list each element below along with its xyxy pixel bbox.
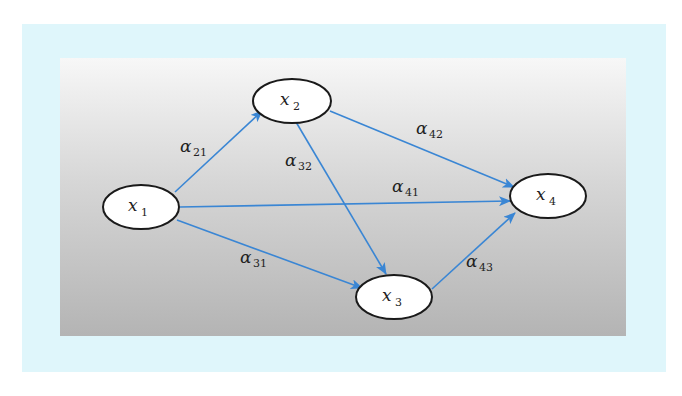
svg-text:32: 32 (298, 160, 312, 173)
svg-text:42: 42 (429, 128, 443, 141)
svg-text:31: 31 (253, 257, 267, 270)
svg-text:4: 4 (549, 195, 556, 208)
svg-text:x: x (280, 89, 290, 109)
svg-text:α: α (240, 247, 252, 267)
svg-text:α: α (466, 251, 478, 271)
svg-text:α: α (392, 176, 404, 196)
edge-label-a21: α 21 (180, 136, 207, 159)
svg-text:x: x (382, 285, 392, 305)
node-x1: x 1 (103, 185, 179, 229)
svg-text:x: x (536, 184, 546, 204)
edge-x2-x3 (296, 122, 386, 274)
node-x2: x 2 (253, 79, 331, 123)
svg-text:1: 1 (141, 206, 148, 219)
svg-text:α: α (180, 136, 192, 156)
path-diagram: α 21 α 32 α 42 α 41 α 31 α 43 x 1 x 2 x … (0, 0, 682, 396)
edge-label-a32: α 32 (285, 150, 312, 173)
node-x4: x 4 (510, 174, 586, 218)
svg-text:3: 3 (395, 296, 402, 309)
edge-label-a41: α 41 (392, 176, 419, 199)
svg-text:x: x (128, 195, 138, 215)
svg-text:21: 21 (193, 146, 207, 159)
edge-x1-x3 (177, 220, 362, 288)
node-x3: x 3 (356, 275, 432, 319)
edge-label-a42: α 42 (416, 118, 443, 141)
svg-text:α: α (416, 118, 428, 138)
svg-text:41: 41 (405, 186, 419, 199)
edges (175, 111, 515, 289)
svg-text:2: 2 (293, 100, 300, 113)
svg-text:43: 43 (479, 261, 493, 274)
svg-text:α: α (285, 150, 297, 170)
edge-label-a43: α 43 (466, 251, 493, 274)
edge-label-a31: α 31 (240, 247, 267, 270)
